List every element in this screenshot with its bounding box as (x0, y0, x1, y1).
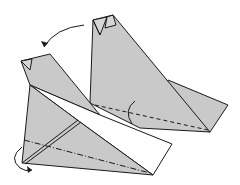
origami-diagram (0, 0, 240, 185)
back-plane (90, 15, 228, 132)
turn-over-arrow-icon (41, 25, 84, 47)
back-plane-body (90, 15, 210, 132)
